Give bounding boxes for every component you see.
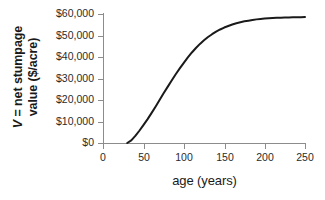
x-axis-line bbox=[103, 143, 306, 144]
x-tick-mark-100 bbox=[184, 144, 185, 149]
x-tick-label-250: 250 bbox=[285, 152, 325, 163]
data-series-net-stumpage-value bbox=[127, 17, 305, 143]
y-tick-label-30000: $30,000 bbox=[4, 73, 94, 84]
y-tick-label-20000: $20,000 bbox=[4, 94, 94, 105]
x-tick-label-100: 100 bbox=[164, 152, 204, 163]
y-tick-label-0: $0 bbox=[4, 137, 94, 148]
x-tick-mark-150 bbox=[225, 144, 226, 149]
x-tick-mark-200 bbox=[265, 144, 266, 149]
y-tick-label-60000: $60,000 bbox=[4, 8, 94, 19]
x-tick-label-50: 50 bbox=[124, 152, 164, 163]
x-tick-mark-250 bbox=[305, 144, 306, 149]
x-tick-label-150: 150 bbox=[205, 152, 245, 163]
x-tick-label-0: 0 bbox=[83, 152, 123, 163]
x-tick-label-200: 200 bbox=[245, 152, 285, 163]
chart-figure: V = net stumpage value ($/acre) $60,000 … bbox=[0, 0, 325, 200]
x-tick-mark-0 bbox=[103, 144, 104, 149]
y-tick-label-50000: $50,000 bbox=[4, 30, 94, 41]
y-tick-label-40000: $40,000 bbox=[4, 51, 94, 62]
y-axis-line bbox=[103, 13, 104, 144]
x-tick-mark-50 bbox=[144, 144, 145, 149]
y-tick-label-10000: $10,000 bbox=[4, 116, 94, 127]
x-axis-title: age (years) bbox=[103, 173, 306, 188]
